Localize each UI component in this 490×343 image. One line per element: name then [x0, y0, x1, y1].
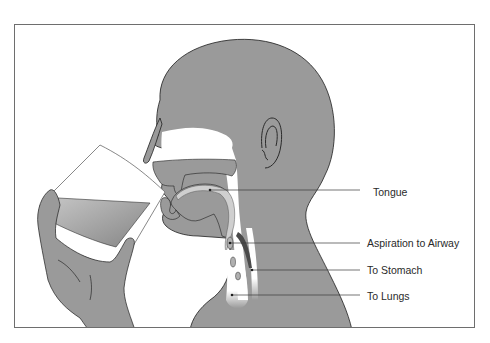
droplet: [231, 257, 236, 267]
label-tongue: Tongue: [373, 186, 407, 198]
label-to-lungs: To Lungs: [367, 290, 410, 302]
droplet: [236, 272, 241, 280]
anatomy-illustration: [0, 0, 490, 343]
label-to-stomach: To Stomach: [367, 264, 422, 276]
label-aspiration-to-airway: Aspiration to Airway: [367, 237, 459, 249]
